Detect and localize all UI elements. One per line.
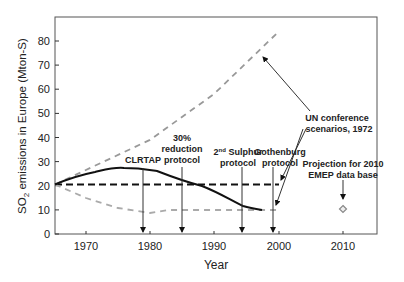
y-tick-label: 10 [38,204,50,216]
un-conference-label-line2: scenarios, 1972 [305,124,372,134]
y-axis [55,41,59,234]
y-axis-title: SO2 emissions in Europe (Mton-S) [16,38,31,214]
so2-emissions-chart: 0 10 20 30 40 50 60 70 80 1970 1980 1990… [0,0,404,282]
x-tick-label: 1980 [138,240,162,252]
y-tick-label: 50 [38,107,50,119]
y-tick-label: 80 [38,35,50,47]
2nd-sulphur-label-line2: protocol [220,158,256,168]
un-conference-label-line1: UN conference [305,113,369,123]
y-tick-label: 70 [38,59,50,71]
y-tick-label: 0 [44,228,50,240]
projection-label-line2: EMEP data base [308,170,377,180]
y-axis-title-so: SO [16,197,28,214]
un-arrow-high [263,57,310,111]
projection-diamond-marker [340,206,347,213]
x-tick-label: 1970 [74,240,98,252]
y-tick-label: 30 [38,156,50,168]
x-tick-label: 2000 [267,240,291,252]
x-tick-label: 2010 [331,240,355,252]
x-axis-title: Year [204,258,228,272]
gothenburg-label-line1: Gothenburg [254,147,306,157]
clrtap-label: CLRTAP [125,155,161,165]
y-tick-label: 60 [38,83,50,95]
30pct-label-line3: protocol [164,155,200,165]
y-axis-title-rest: emissions in Europe (Mton-S) [16,38,28,193]
y-tick-label: 20 [38,180,50,192]
series-un-scenario-low [55,185,279,214]
projection-label-line1: Projection for 2010 [302,159,383,169]
x-tick-label: 1990 [202,240,226,252]
30pct-label-line1: 30% [173,133,191,143]
30pct-label-line2: reduction [161,144,202,154]
gothenburg-label-line2: protocol [262,158,298,168]
series-actual-emissions [55,168,262,210]
y-tick-label: 40 [38,132,50,144]
